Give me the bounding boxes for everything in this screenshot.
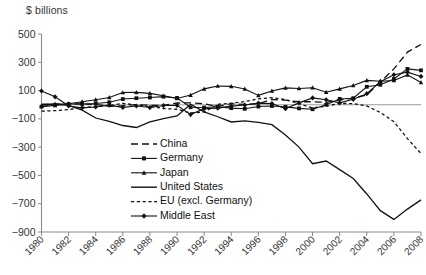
legend-label: United States — [160, 180, 223, 192]
chart-container: $ billions 500300100−100−300−500−700−900… — [0, 0, 426, 275]
legend-label: Japan — [160, 166, 189, 178]
series-line — [42, 75, 422, 106]
series-china — [42, 44, 422, 106]
legend-item-eu-excl-germany[interactable]: EU (excl. Germany) — [131, 194, 252, 206]
data-point — [161, 103, 166, 108]
legend-marker — [142, 156, 146, 160]
legend-label: Germany — [160, 151, 204, 163]
x-tick-label: 2004 — [348, 233, 372, 257]
data-point — [53, 94, 58, 99]
y-tick-label: 300 — [18, 56, 36, 68]
x-tick-label: 2006 — [375, 233, 399, 257]
y-tick-label: −100 — [12, 112, 36, 124]
y-tick-label: −500 — [12, 169, 36, 181]
legend-label: EU (excl. Germany) — [160, 194, 252, 206]
legend-item-china[interactable]: China — [131, 137, 188, 149]
data-point — [310, 95, 315, 100]
legend-label: Middle East — [160, 209, 215, 221]
y-tick-label: −700 — [12, 197, 36, 209]
data-point — [121, 97, 125, 101]
series-middle-east — [39, 70, 423, 118]
legend-item-japan[interactable]: Japan — [131, 166, 189, 178]
chart-legend: ChinaGermanyJapanUnited StatesEU (excl. … — [131, 137, 252, 221]
data-point — [297, 106, 301, 110]
x-tick-label: 1986 — [104, 233, 128, 257]
legend-marker — [142, 213, 147, 218]
x-tick-label: 1992 — [185, 233, 209, 257]
legend-item-germany[interactable]: Germany — [131, 151, 204, 163]
x-tick-label: 1996 — [239, 233, 263, 257]
x-tick-label: 1988 — [131, 233, 155, 257]
line-chart: 500300100−100−300−500−700−90019801982198… — [0, 0, 426, 275]
legend-item-united-states[interactable]: United States — [131, 180, 223, 192]
data-point — [419, 68, 423, 72]
y-tick-label: 500 — [18, 28, 36, 40]
legend-label: China — [160, 137, 188, 149]
data-point — [39, 88, 44, 93]
x-tick-label: 1984 — [77, 233, 101, 257]
data-point — [365, 85, 369, 89]
data-point — [148, 96, 152, 100]
data-point — [242, 102, 247, 107]
data-point — [391, 72, 396, 77]
y-tick-label: −900 — [12, 226, 36, 238]
x-tick-label: 2008 — [402, 233, 426, 257]
x-tick-label: 2002 — [321, 233, 345, 257]
data-point — [134, 96, 138, 100]
x-tick-label: 1994 — [212, 233, 236, 257]
x-tick-label: 1990 — [158, 233, 182, 257]
series-line — [42, 44, 422, 106]
y-tick-label: −300 — [12, 141, 36, 153]
x-tick-label: 1998 — [266, 233, 290, 257]
data-point — [338, 97, 342, 101]
x-tick-label: 1982 — [50, 233, 74, 257]
y-tick-label: 100 — [18, 84, 36, 96]
legend-item-middle-east[interactable]: Middle East — [131, 209, 215, 221]
x-tick-label: 2000 — [293, 233, 317, 257]
data-point — [419, 74, 424, 79]
